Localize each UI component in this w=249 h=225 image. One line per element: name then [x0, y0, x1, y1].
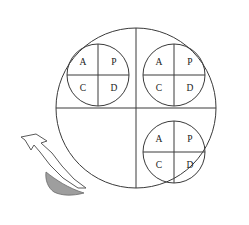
label-top-left-D: D	[111, 83, 118, 93]
label-top-right-A: A	[156, 57, 163, 67]
label-bottom-right-A: A	[156, 134, 163, 144]
diagram-canvas: A P C D A P C D A P C D	[0, 0, 249, 225]
label-top-right-C: C	[156, 83, 162, 93]
pdca-nested-circles-figure: A P C D A P C D A P C D	[0, 0, 249, 225]
label-bottom-right-C: C	[156, 160, 162, 170]
label-top-left-C: C	[80, 83, 86, 93]
label-bottom-right-P: P	[187, 134, 192, 144]
small-circle-bottom-right: A P C D	[143, 121, 205, 183]
label-top-right-P: P	[187, 57, 192, 67]
label-top-left-P: P	[111, 57, 116, 67]
small-circle-top-right: A P C D	[143, 44, 205, 106]
label-bottom-right-D: D	[187, 160, 194, 170]
label-top-right-D: D	[187, 83, 194, 93]
label-top-left-A: A	[80, 57, 87, 67]
small-circle-top-left: A P C D	[67, 44, 129, 106]
